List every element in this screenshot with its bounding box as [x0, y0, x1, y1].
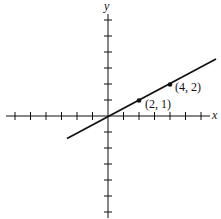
y-axis-label: y	[104, 0, 109, 12]
point-label-2-1: (2, 1)	[145, 98, 171, 110]
graph-canvas	[0, 0, 221, 219]
x-axis-label: x	[212, 109, 217, 121]
coordinate-plane-figure: y x (2, 1) (4, 2)	[0, 0, 221, 219]
point-2-1	[137, 98, 142, 103]
line-y-equals-half-x	[67, 59, 216, 139]
point-label-4-2: (4, 2)	[175, 81, 201, 93]
point-4-2	[168, 82, 173, 87]
